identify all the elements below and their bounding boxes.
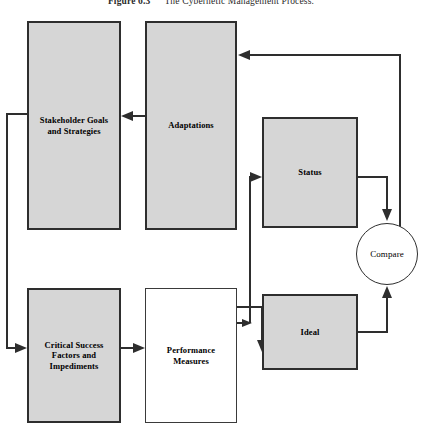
edge-adaptations-to-stakeholder — [121, 111, 145, 121]
edge-ideal-to-compare — [358, 286, 392, 332]
edge-stakeholder-to-critical-success — [7, 114, 27, 353]
edge-critical-success-to-performance — [121, 343, 145, 353]
node-critical-success-factors-and-impediments[interactable]: Critical Success Factors and Impediments — [27, 288, 121, 423]
figure-caption: Figure 6.3The Cybernetic Management Proc… — [0, 0, 422, 8]
figure-caption-text: The Cybernetic Management Process. — [164, 0, 314, 6]
node-label-stakeholder: Stakeholder Goals and Strategies — [29, 115, 119, 136]
node-status[interactable]: Status — [262, 117, 358, 228]
figure-container: Figure 6.3The Cybernetic Management Proc… — [0, 0, 422, 423]
node-label-compare: Compare — [366, 249, 408, 260]
node-compare[interactable]: Compare — [356, 223, 418, 285]
node-label-adaptations: Adaptations — [164, 120, 218, 130]
edge-status-to-compare — [358, 177, 392, 221]
node-label-ideal: Ideal — [297, 327, 324, 337]
figure-caption-label: Figure 6.3 — [108, 0, 151, 6]
node-stakeholder-goals-and-strategies[interactable]: Stakeholder Goals and Strategies — [27, 21, 121, 230]
node-adaptations[interactable]: Adaptations — [145, 21, 237, 230]
edge-performance-to-status — [237, 172, 262, 327]
node-performance-measures[interactable]: Performance Measures — [145, 288, 237, 423]
node-label-critical-success: Critical Success Factors and Impediments — [29, 340, 119, 371]
node-label-status: Status — [294, 167, 325, 177]
node-ideal[interactable]: Ideal — [262, 294, 358, 370]
node-label-performance-measures: Performance Measures — [146, 345, 236, 366]
